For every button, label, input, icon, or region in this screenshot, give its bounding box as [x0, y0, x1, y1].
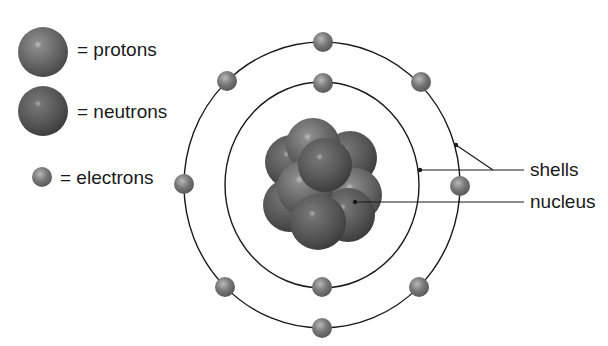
protons-label: = protons: [77, 40, 157, 59]
electron-legend-icon: [32, 167, 52, 187]
electrons-label: = electrons: [60, 168, 153, 187]
neutron-legend-icon: [18, 86, 68, 136]
nucleus: [263, 118, 382, 250]
nucleus-label: nucleus: [530, 192, 596, 211]
neutrons-label: = neutrons: [77, 102, 167, 121]
proton-legend-icon: [18, 27, 68, 77]
shells-label: shells: [530, 160, 579, 179]
